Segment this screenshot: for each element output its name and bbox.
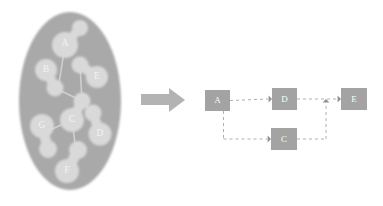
cluster-lobe — [39, 140, 57, 158]
node-label-a: A — [214, 95, 221, 105]
cluster-label-c: C — [69, 114, 75, 124]
cluster-lobe — [69, 141, 87, 159]
cluster-label-f: F — [64, 165, 69, 175]
clustered-graph-blob: ABECGDF — [19, 12, 121, 190]
node-label-c: C — [281, 134, 287, 144]
node-label-d: D — [281, 94, 288, 104]
figure-canvas: ABECGDFADEC — [0, 0, 383, 206]
arrow-tail — [141, 94, 169, 105]
graph-abstraction-figure: ABECGDFADEC — [0, 0, 383, 206]
transform-arrow — [141, 88, 185, 112]
cluster-lobe — [85, 105, 102, 122]
cluster-label-e: E — [94, 71, 100, 81]
cluster-label-d: D — [97, 128, 104, 138]
dag-node-c[interactable]: C — [271, 128, 297, 150]
abstracted-dag: ADEC — [205, 88, 367, 150]
edge-c-e-arrowhead — [323, 99, 330, 102]
edge-a-c-arrowhead — [268, 136, 271, 143]
edge-a-d — [230, 99, 268, 101]
cluster-lobe — [72, 20, 88, 36]
edge-d-e-arrowhead — [338, 96, 341, 103]
dag-node-e[interactable]: E — [341, 88, 367, 110]
cluster-lobe — [72, 57, 89, 74]
node-label-e: E — [351, 94, 357, 104]
dag-node-a[interactable]: A — [205, 90, 230, 111]
cluster-label-g: G — [39, 120, 46, 130]
cluster-lobe — [47, 80, 64, 97]
dag-node-d[interactable]: D — [272, 88, 297, 110]
cluster-label-b: B — [43, 64, 49, 74]
edge-a-d-arrowhead — [269, 96, 272, 103]
cluster-label-a: A — [62, 38, 69, 48]
arrow-head — [169, 88, 185, 112]
